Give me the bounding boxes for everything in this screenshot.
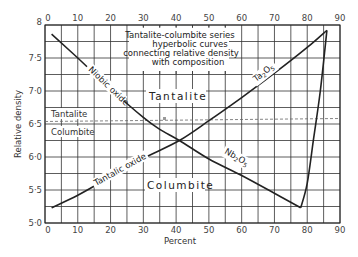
y-tick-label: 7·5	[28, 53, 42, 63]
y-axis-ticks: 5·05·56·06·57·07·58	[28, 17, 42, 228]
y-tick-label: 6·5	[28, 119, 42, 129]
x-tick-top-label: 40	[171, 13, 182, 23]
x-tick-bottom-label: 60	[236, 225, 247, 235]
reference-label-tantalite: Tantalite	[50, 109, 87, 119]
x-axis-top-ticks: 0102030405060708090	[45, 13, 345, 23]
boundary-marker	[163, 117, 166, 120]
y-tick-label: 5·5	[28, 185, 42, 195]
x-axis-bottom-ticks: 0102030405060708090	[45, 225, 345, 235]
chart-title-line-4: with composition	[152, 57, 225, 67]
chart: 0102030405060708090 0102030405060708090 …	[0, 0, 358, 257]
x-tick-top-label: 10	[72, 13, 83, 23]
x-tick-top-label: 70	[269, 13, 280, 23]
y-axis-label: Relative density	[13, 90, 23, 158]
y-tick-label: 8	[37, 17, 42, 27]
x-tick-bottom-label: 30	[138, 225, 149, 235]
x-tick-top-label: 0	[45, 13, 50, 23]
y-tick-label: 6·0	[28, 152, 42, 162]
niobic-oxide-label: Niobic oxide	[87, 64, 131, 107]
y-tick-label: 7·0	[28, 86, 42, 96]
tantalic-oxide-label: Tantalic oxide	[91, 151, 147, 188]
x-tick-bottom-label: 90	[335, 225, 346, 235]
region-label-tantalite: Tantalite	[148, 90, 207, 102]
x-tick-top-label: 30	[138, 13, 149, 23]
x-tick-top-label: 90	[335, 13, 346, 23]
region-label-columbite: Columbite	[147, 179, 214, 191]
x-tick-bottom-label: 70	[269, 225, 280, 235]
x-tick-top-label: 60	[236, 13, 247, 23]
x-tick-top-label: 80	[302, 13, 313, 23]
x-tick-bottom-label: 20	[105, 225, 116, 235]
y-tick-label: 5·0	[28, 218, 42, 228]
x-tick-top-label: 50	[203, 13, 214, 23]
x-tick-bottom-label: 50	[203, 225, 214, 235]
reference-label-columbite: Columbite	[51, 127, 94, 137]
x-tick-bottom-label: 0	[45, 225, 50, 235]
x-tick-bottom-label: 40	[171, 225, 182, 235]
x-tick-top-label: 20	[105, 13, 116, 23]
x-tick-bottom-label: 80	[302, 225, 313, 235]
x-axis-label: Percent	[164, 236, 197, 246]
x-tick-bottom-label: 10	[72, 225, 83, 235]
